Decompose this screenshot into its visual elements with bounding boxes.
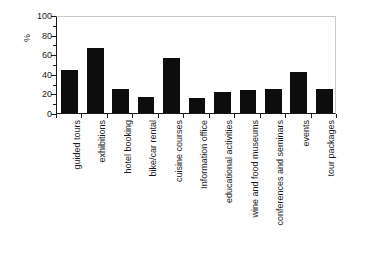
x-axis-label: events — [302, 120, 311, 147]
plot-area — [56, 16, 336, 114]
y-tick-label: 20 — [26, 90, 52, 99]
x-axis-label: cuisine courses — [175, 120, 184, 182]
bar — [163, 58, 180, 113]
x-axis-label: Information office — [200, 120, 209, 189]
x-axis-label: tour packages — [327, 120, 336, 177]
x-tick-mark — [260, 114, 261, 118]
x-tick-mark — [234, 114, 235, 118]
bar — [61, 70, 78, 113]
x-axis-label: guided tours — [73, 120, 82, 170]
x-axis-label: wine and food museums — [251, 120, 260, 218]
bar — [316, 89, 333, 113]
y-tick-label: 80 — [26, 32, 52, 41]
x-tick-mark — [209, 114, 210, 118]
bar — [240, 90, 257, 113]
bar — [112, 89, 129, 114]
x-tick-mark — [107, 114, 108, 118]
y-tick-label: 60 — [26, 51, 52, 60]
y-tick-label: 40 — [26, 71, 52, 80]
x-tick-mark — [285, 114, 286, 118]
x-axis-label: conferences and seminars — [276, 120, 285, 226]
x-tick-mark — [132, 114, 133, 118]
x-tick-mark — [336, 114, 337, 118]
bar — [138, 97, 155, 113]
bar — [290, 72, 307, 113]
bar-chart: % 020406080100 guided toursexhibitionsho… — [0, 0, 391, 255]
bar — [189, 98, 206, 113]
x-axis-label: hotel booking — [124, 120, 133, 174]
x-tick-mark — [56, 114, 57, 118]
x-axis-label: exhibitions — [98, 120, 107, 163]
bar — [265, 89, 282, 114]
x-tick-mark — [158, 114, 159, 118]
bar — [87, 48, 104, 113]
x-tick-mark — [183, 114, 184, 118]
y-tick-label: 100 — [26, 12, 52, 21]
x-tick-mark — [311, 114, 312, 118]
y-tick-label: 0 — [26, 110, 52, 119]
bar — [214, 92, 231, 113]
x-tick-mark — [81, 114, 82, 118]
x-axis-label: bike/car rental — [149, 120, 158, 177]
x-axis-label: educational activities — [225, 120, 234, 203]
